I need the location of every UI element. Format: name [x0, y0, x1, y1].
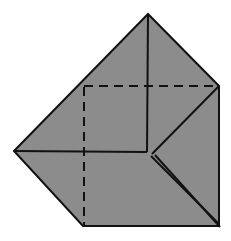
figure-container [0, 0, 231, 241]
left-horizontal-crease [14, 151, 147, 152]
origami-fold-diagram [0, 0, 231, 241]
apex-vertical-crease [147, 14, 148, 152]
